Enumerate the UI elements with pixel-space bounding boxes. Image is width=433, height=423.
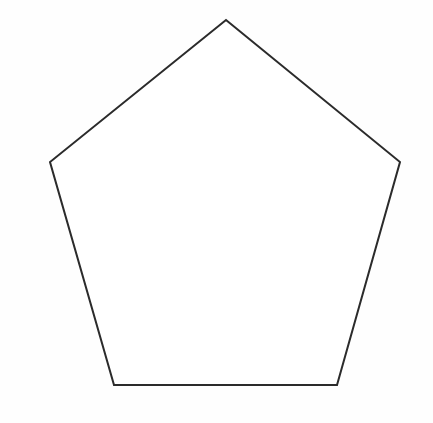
- pentagon-figure: [0, 0, 433, 423]
- drawing-canvas: [0, 0, 433, 423]
- pentagon-outline: [50, 20, 400, 385]
